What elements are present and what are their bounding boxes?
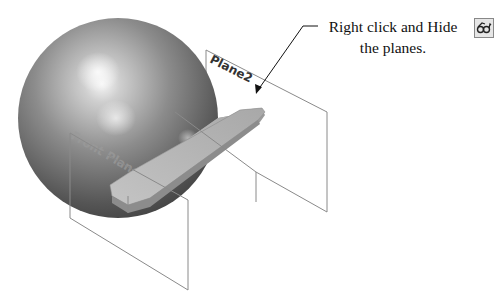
callout-text: Right click and Hide the planes.: [318, 16, 468, 58]
callout-line-2: the planes.: [318, 37, 468, 58]
leader-arrow: [255, 26, 318, 94]
hide-button[interactable]: [474, 18, 494, 38]
callout-line-1: Right click and Hide: [318, 16, 468, 37]
plane2-label: Plane2: [208, 52, 255, 85]
hide-eyeglasses-icon: [476, 21, 492, 35]
